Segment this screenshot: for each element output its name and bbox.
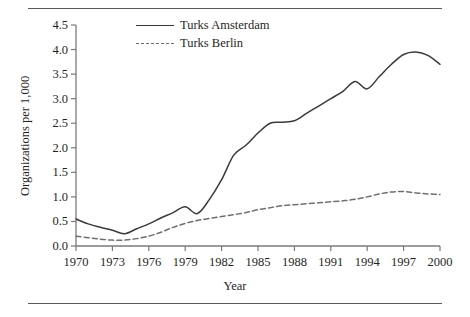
x-axis-tick-marks bbox=[76, 246, 440, 251]
x-axis-tick-label: 1985 bbox=[246, 256, 271, 269]
series-line-turks-amsterdam bbox=[76, 52, 440, 234]
data-series-group bbox=[76, 52, 440, 240]
x-axis-tick-label: 1973 bbox=[100, 256, 125, 269]
x-axis-tick-label: 2000 bbox=[428, 256, 453, 269]
x-axis-tick-label: 1994 bbox=[355, 256, 380, 269]
x-axis-tick-label: 1982 bbox=[209, 256, 234, 269]
x-axis-tick-label: 1979 bbox=[173, 256, 198, 269]
x-axis-tick-label: 1976 bbox=[136, 256, 161, 269]
y-axis-tick-label: 0.0 bbox=[22, 240, 68, 253]
chart-figure: 0.00.51.01.52.02.53.03.54.04.5 197019731… bbox=[0, 0, 470, 317]
y-axis-tick-marks bbox=[71, 25, 76, 246]
y-axis-tick-label: 4.5 bbox=[22, 19, 68, 32]
x-axis-tick-label: 1991 bbox=[318, 256, 343, 269]
x-axis-tick-label: 1997 bbox=[391, 256, 416, 269]
x-axis-tick-label: 1988 bbox=[282, 256, 307, 269]
legend-swatch-turks-berlin bbox=[136, 43, 174, 44]
y-axis-tick-label: 4.0 bbox=[22, 43, 68, 56]
series-line-turks-berlin bbox=[76, 191, 440, 240]
y-axis-title: Organizations per 1,000 bbox=[18, 76, 33, 196]
legend-label-turks-berlin: Turks Berlin bbox=[180, 36, 243, 51]
x-axis-title: Year bbox=[0, 279, 470, 294]
legend-label-turks-amsterdam: Turks Amsterdam bbox=[180, 18, 269, 33]
y-axis-tick-label: 0.5 bbox=[22, 215, 68, 228]
legend-swatch-turks-amsterdam bbox=[136, 25, 174, 26]
axis-lines bbox=[76, 25, 440, 246]
x-axis-tick-label: 1970 bbox=[64, 256, 89, 269]
